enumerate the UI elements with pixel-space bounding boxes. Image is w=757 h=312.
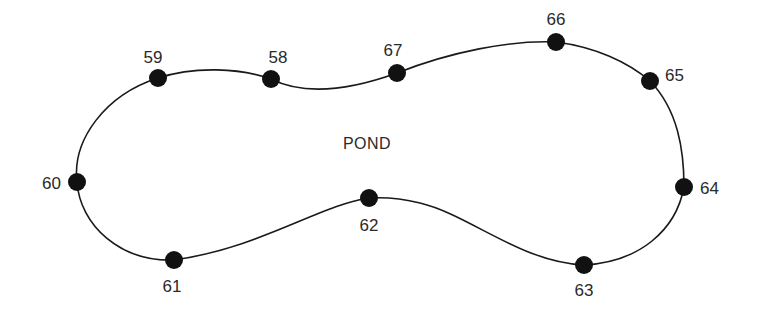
survey-point-65 [641,72,659,90]
survey-point-63 [575,256,593,274]
pond-label: POND [343,135,391,152]
point-label-58: 58 [269,48,288,67]
point-label-66: 66 [547,10,566,29]
point-label-64: 64 [700,179,719,198]
point-label-62: 62 [360,216,379,235]
point-label-60: 60 [42,174,61,193]
survey-point-61 [165,251,183,269]
survey-points [68,33,693,274]
point-label-61: 61 [163,277,182,296]
point-label-63: 63 [575,281,594,300]
survey-point-64 [675,178,693,196]
survey-point-67 [388,64,406,82]
point-label-67: 67 [384,41,403,60]
survey-point-59 [149,69,167,87]
pond-outline [77,42,684,265]
survey-point-66 [547,33,565,51]
point-label-59: 59 [144,48,163,67]
survey-point-58 [262,70,280,88]
pond-survey-diagram: 59586766656463626160 POND [0,0,757,312]
survey-point-60 [68,173,86,191]
point-label-65: 65 [665,66,684,85]
survey-point-62 [360,189,378,207]
